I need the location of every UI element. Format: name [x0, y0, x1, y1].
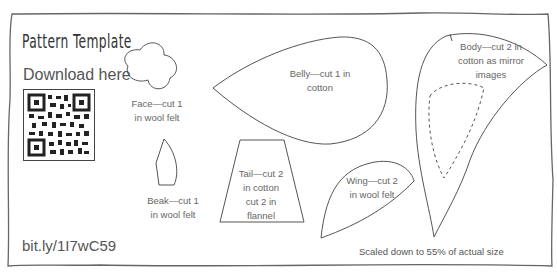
wing-label: Wing—cut 2 in wool felt: [332, 174, 412, 202]
tail-label: Tail—cut 2 in cotton cut 2 in flannel: [226, 167, 296, 223]
short-url-link[interactable]: bit.ly/1I7wC59: [22, 237, 116, 254]
body-label: Body—cut 2 in cotton as mirror images: [446, 40, 536, 82]
qr-code-icon[interactable]: [23, 89, 95, 161]
scale-note: Scaled down to 55% of actual size: [359, 246, 504, 257]
tail-label-line2: in cotton: [226, 181, 296, 195]
tail-label-line3: cut 2 in: [226, 195, 296, 209]
pattern-title: Pattern Template: [22, 30, 132, 52]
face-label: Face—cut 1 in wool felt: [117, 97, 197, 125]
tail-label-line1: Tail—cut 2: [226, 167, 296, 181]
beak-label-line2: in wool felt: [133, 208, 213, 222]
belly-label: Belly—cut 1 in cotton: [270, 67, 370, 95]
face-label-line1: Face—cut 1: [117, 97, 197, 111]
wing-label-line1: Wing—cut 2: [332, 174, 412, 188]
belly-label-line1: Belly—cut 1 in: [270, 67, 370, 81]
body-label-line3: images: [446, 68, 536, 82]
beak-label-line1: Beak—cut 1: [133, 194, 213, 208]
wing-label-line2: in wool felt: [332, 188, 412, 202]
face-label-line2: in wool felt: [117, 111, 197, 125]
tail-label-line4: flannel: [226, 209, 296, 223]
beak-label: Beak—cut 1 in wool felt: [133, 194, 213, 222]
body-label-line1: Body—cut 2 in: [446, 40, 536, 54]
belly-label-line2: cotton: [270, 81, 370, 95]
body-label-line2: cotton as mirror: [446, 54, 536, 68]
body-dashed-inner: [429, 83, 484, 178]
download-link[interactable]: Download here: [23, 66, 131, 84]
face-shape: [125, 43, 177, 89]
beak-shape: [156, 139, 177, 185]
